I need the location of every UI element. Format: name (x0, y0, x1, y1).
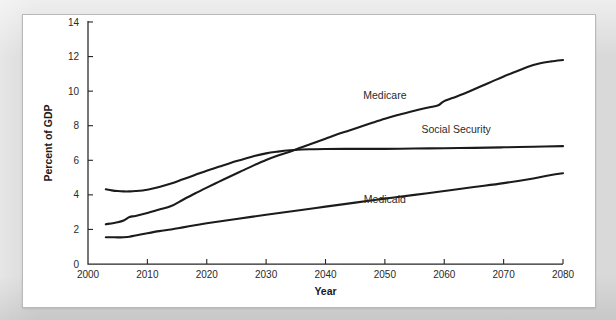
chart-panel (22, 14, 596, 308)
